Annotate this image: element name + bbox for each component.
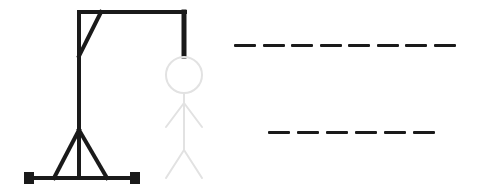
figure-left-arm xyxy=(166,103,184,127)
letter-blank xyxy=(413,131,435,134)
letter-blank xyxy=(268,131,290,134)
letter-slot xyxy=(355,131,356,132)
letter-blank xyxy=(405,44,427,47)
gallows-brace-left xyxy=(54,130,79,178)
letter-slot xyxy=(268,131,269,132)
gallows xyxy=(24,12,185,184)
letter-slot xyxy=(384,131,385,132)
letter-slot xyxy=(326,131,327,132)
stick-figure xyxy=(166,57,202,178)
letter-slot xyxy=(348,44,349,45)
letter-blank xyxy=(384,131,406,134)
letter-blank xyxy=(377,44,399,47)
gallows-drawing xyxy=(0,0,486,184)
letter-slot xyxy=(434,44,435,45)
letter-blank xyxy=(348,44,370,47)
letter-blank xyxy=(297,131,319,134)
letter-slot xyxy=(263,44,264,45)
letter-blank xyxy=(326,131,348,134)
figure-right-arm xyxy=(184,103,202,127)
figure-head xyxy=(166,57,202,93)
gallows-brace-right xyxy=(79,130,107,178)
figure-left-leg xyxy=(166,150,184,178)
letter-blank xyxy=(434,44,456,47)
letter-blank xyxy=(234,44,256,47)
word-2-blanks xyxy=(268,131,435,134)
figure-right-leg xyxy=(184,150,202,178)
letter-slot xyxy=(291,44,292,45)
gallows-foot-right xyxy=(130,172,140,184)
letter-blank xyxy=(320,44,342,47)
letter-slot xyxy=(297,131,298,132)
letter-blank xyxy=(263,44,285,47)
letter-slot xyxy=(377,44,378,45)
letter-blank xyxy=(355,131,377,134)
letter-slot xyxy=(234,44,235,45)
hangman-game xyxy=(0,0,486,184)
gallows-foot-left xyxy=(24,172,34,184)
letter-slot xyxy=(405,44,406,45)
letter-slot xyxy=(413,131,414,132)
letter-slot xyxy=(320,44,321,45)
word-1-blanks xyxy=(234,44,456,47)
letter-blank xyxy=(291,44,313,47)
gallows-diagonal xyxy=(79,12,101,56)
